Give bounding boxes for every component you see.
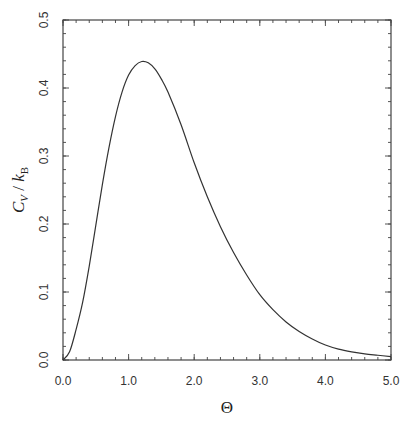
x-tick-label: 3.0: [251, 374, 268, 388]
y-axis-title-denom-sub: B: [18, 167, 30, 174]
x-tick-label: 4.0: [317, 374, 334, 388]
x-axis-title: Θ: [221, 398, 233, 417]
x-tick-label: 2.0: [186, 374, 203, 388]
y-tick-label: 0.1: [37, 283, 51, 300]
x-tick-label: 0.0: [55, 374, 72, 388]
y-axis-title-sep: /: [9, 182, 28, 195]
y-tick-label: 0.0: [37, 351, 51, 368]
x-tick-label: 1.0: [120, 374, 137, 388]
minor-ticks: [63, 20, 391, 360]
x-tick-labels: 0.01.02.03.04.05.0: [55, 374, 400, 388]
plot-frame: [63, 20, 391, 360]
y-tick-label: 0.5: [37, 11, 51, 28]
major-ticks: [63, 20, 391, 360]
chart: 0.01.02.03.04.05.0 0.00.10.20.30.40.5 Θ …: [0, 0, 412, 422]
data-line: [63, 61, 391, 360]
x-tick-label: 5.0: [383, 374, 400, 388]
y-tick-label: 0.4: [37, 79, 51, 96]
y-axis-title: CV / kB: [9, 167, 30, 213]
y-tick-label: 0.3: [37, 147, 51, 164]
y-axis-title-main: C: [9, 201, 28, 213]
y-tick-label: 0.2: [37, 215, 51, 232]
y-tick-labels: 0.00.10.20.30.40.5: [37, 11, 51, 368]
